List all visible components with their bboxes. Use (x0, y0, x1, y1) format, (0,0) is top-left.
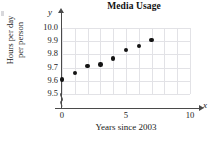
x-tick-label: 0 (50, 110, 74, 120)
y-tick-label: 9.6 (34, 76, 58, 85)
gridline-horizontal (62, 81, 190, 82)
y-tick-label: 10.0 (34, 23, 58, 32)
data-point (149, 38, 153, 42)
gridline-vertical (139, 28, 140, 94)
data-point (137, 44, 141, 48)
x-tick-label: 5 (114, 110, 138, 120)
scan-edge-artifact (1, 11, 4, 16)
data-point (73, 71, 77, 75)
data-point (60, 77, 64, 81)
y-tick-label: 9.9 (34, 36, 58, 45)
gridline-horizontal (62, 28, 190, 29)
y-axis-symbol: y (48, 7, 52, 17)
plot-area (62, 28, 190, 94)
gridline-vertical (190, 28, 191, 94)
x-axis-symbol: x (203, 100, 207, 110)
y-tick-label: 9.7 (34, 63, 58, 72)
gridline-vertical (75, 28, 76, 94)
axis-break-icon (56, 93, 67, 107)
x-tick-label: 10 (178, 110, 202, 120)
media-usage-scatter-chart: Media Usage Hours per day per person 10.… (0, 0, 215, 141)
gridline-vertical (126, 28, 127, 94)
data-point (111, 56, 115, 60)
y-axis-label: Hours per day per person (6, 2, 26, 78)
gridline-vertical (88, 28, 89, 94)
gridline-vertical (164, 28, 165, 94)
x-axis-caption: Years since 2003 (62, 122, 190, 132)
gridline-horizontal (62, 68, 190, 69)
gridline-horizontal (62, 41, 190, 42)
gridline-horizontal (62, 54, 190, 55)
y-tick-label: 9.5 (34, 89, 58, 98)
y-axis-arrow-icon (58, 8, 64, 13)
x-axis-line (55, 108, 201, 109)
gridline-vertical (100, 28, 101, 94)
y-tick-label: 9.8 (34, 49, 58, 58)
data-point (98, 62, 102, 66)
gridline-horizontal (62, 94, 190, 95)
chart-title: Media Usage (88, 1, 180, 11)
gridline-vertical (113, 28, 114, 94)
y-axis-label-line-2: per person (16, 2, 26, 78)
gridline-vertical (177, 28, 178, 94)
